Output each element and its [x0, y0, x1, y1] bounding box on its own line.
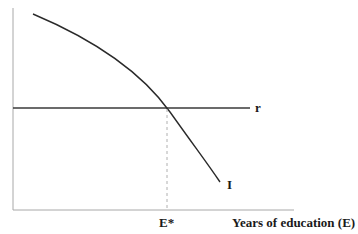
x-axis-label: Years of education (E): [232, 216, 355, 229]
diagram-canvas: [0, 0, 358, 234]
r-label: r: [255, 101, 261, 114]
i-curve: [33, 14, 220, 182]
equilibrium-label: E*: [159, 216, 174, 229]
i-label: I: [227, 178, 232, 191]
